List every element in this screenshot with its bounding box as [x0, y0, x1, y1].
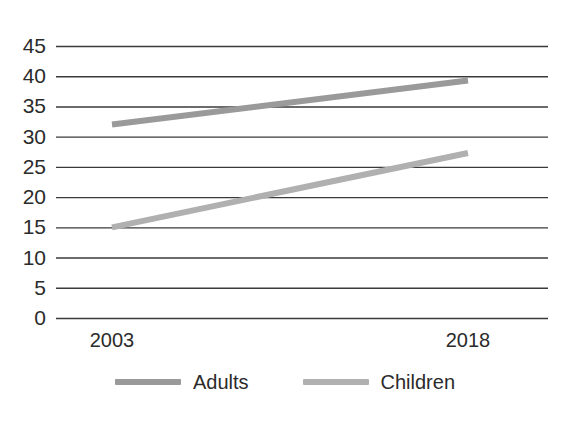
legend-swatch-icon	[115, 379, 181, 385]
y-axis-tick-label: 40	[0, 65, 46, 86]
series-line-children	[112, 153, 468, 227]
chart-legend: AdultsChildren	[0, 372, 570, 392]
y-axis-tick-label: 45	[0, 35, 46, 56]
y-axis-tick-label: 15	[0, 216, 46, 237]
x-axis-tick-label: 2018	[413, 330, 523, 350]
line-chart: 051015202530354045 20032018 AdultsChildr…	[0, 0, 570, 438]
legend-label: Children	[381, 372, 455, 392]
y-axis-tick-label: 35	[0, 95, 46, 116]
legend-label: Adults	[193, 372, 249, 392]
series-line-adults	[112, 80, 468, 124]
legend-item-children[interactable]: Children	[303, 372, 455, 392]
x-axis-tick-label: 2003	[57, 330, 167, 350]
legend-swatch-icon	[303, 379, 369, 385]
series-lines-group	[112, 80, 468, 227]
y-axis-tick-label: 20	[0, 186, 46, 207]
y-axis-tick-label: 30	[0, 126, 46, 147]
y-axis-tick-label: 10	[0, 247, 46, 268]
y-axis-tick-label: 5	[0, 277, 46, 298]
y-axis-tick-label: 0	[0, 307, 46, 328]
y-axis-tick-label: 25	[0, 156, 46, 177]
legend-item-adults[interactable]: Adults	[115, 372, 249, 392]
gridlines-group	[56, 47, 548, 319]
